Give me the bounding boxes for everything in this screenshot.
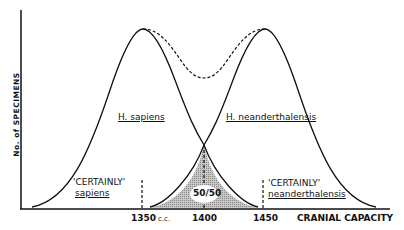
certainly-neanderthal-label: 'CERTAINLY': [268, 178, 320, 188]
unit-cc: c.c.: [158, 215, 170, 223]
tick-1350: 1350: [131, 213, 156, 223]
certainly-sapiens-label: 'CERTAINLY': [73, 177, 125, 187]
certainly-sapiens-sub: sapiens: [75, 188, 109, 198]
x-axis-label: CRANIAL CAPACITY: [297, 213, 393, 223]
sapiens-label: H. sapiens: [118, 112, 165, 122]
chart: No. of SPECIMENS H. sapiens H. neanderth…: [0, 0, 404, 230]
neanderthal-label: H. neanderthalensis: [226, 112, 316, 122]
fifty-fifty-label: 50/50: [193, 188, 221, 198]
combined-dashed-curve: [143, 29, 265, 78]
y-axis-label: No. of SPECIMENS: [12, 72, 21, 157]
certainly-neanderthal-sub: neanderthalensis: [268, 189, 346, 199]
tick-1450: 1450: [253, 213, 278, 223]
tick-1400: 1400: [192, 213, 217, 223]
